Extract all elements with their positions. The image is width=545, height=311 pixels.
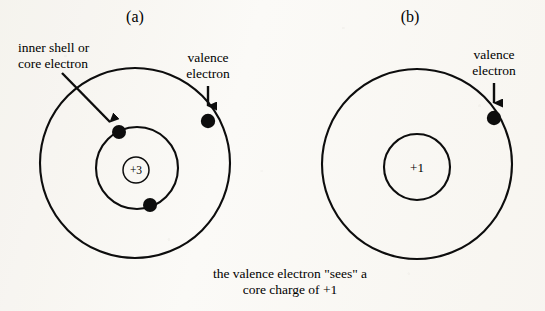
panel-b-valence-label-line2: electron — [472, 63, 516, 78]
caption-line-2: core charge of +1 — [243, 282, 338, 297]
panel-b-valence-electron — [487, 111, 501, 125]
panel-a-valence-label-line2: electron — [186, 66, 230, 81]
caption-line-1: the valence electron "sees" a — [213, 266, 367, 281]
panel-a-inner-shell-arrow — [62, 73, 110, 122]
panel-a-inner-shell-label-line1: inner shell or — [18, 40, 90, 55]
panel-b-core-charge: +1 — [410, 160, 424, 175]
figure-caption: the valence electron "sees" a core charg… — [213, 266, 367, 297]
panel-a: (a) +3 inner shell or core electron vale… — [18, 8, 230, 258]
panel-a-inner-electron-2 — [143, 198, 157, 212]
panel-a-nucleus-charge: +3 — [130, 164, 142, 176]
atom-shell-diagram: (a) +3 inner shell or core electron vale… — [0, 0, 545, 311]
panel-b-label: (b) — [401, 8, 420, 26]
panel-a-label: (a) — [126, 8, 144, 26]
figure-canvas: (a) +3 inner shell or core electron vale… — [0, 0, 545, 311]
panel-a-inner-electron-1 — [112, 125, 126, 139]
panel-b-valence-label-line1: valence — [473, 47, 514, 62]
panel-a-valence-label-line1: valence — [187, 50, 228, 65]
panel-a-outer-shell — [40, 68, 230, 258]
panel-b: (b) +1 valence electron — [322, 8, 516, 259]
panel-a-inner-shell-label-line2: core electron — [18, 56, 88, 71]
panel-a-valence-electron — [201, 114, 215, 128]
